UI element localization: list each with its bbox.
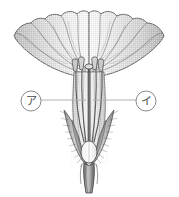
- label-a-text: ア: [26, 95, 37, 108]
- label-a[interactable]: ア: [21, 91, 41, 111]
- label-i-text: イ: [141, 95, 152, 108]
- flower-stalk: [80, 163, 97, 193]
- label-i[interactable]: イ: [136, 91, 156, 111]
- flower-diagram-figure: ア イ: [0, 0, 179, 197]
- stigma-head: [85, 64, 93, 69]
- flower-diagram-canvas: ア イ: [0, 0, 179, 197]
- ovary: [81, 141, 97, 163]
